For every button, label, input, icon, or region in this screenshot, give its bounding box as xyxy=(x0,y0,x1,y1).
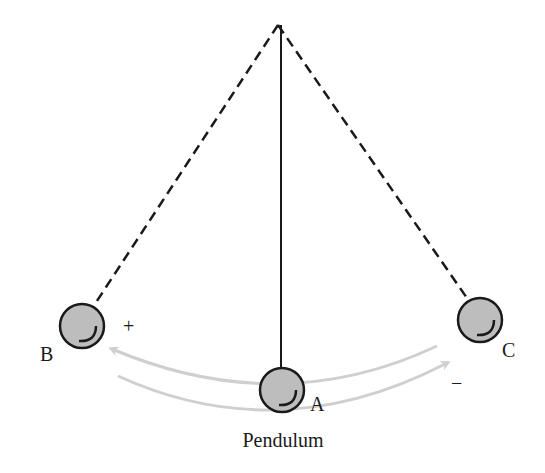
label-a: A xyxy=(310,393,325,415)
bob-b xyxy=(60,304,104,348)
bob-c xyxy=(458,298,502,342)
string-dashed-to-c xyxy=(278,25,469,301)
diagram-caption: Pendulum xyxy=(242,429,324,451)
bob-a xyxy=(260,368,304,412)
pendulum-diagram: B A C + − Pendulum xyxy=(0,0,545,473)
label-c: C xyxy=(502,339,515,361)
label-b: B xyxy=(40,343,53,365)
sign-minus: − xyxy=(451,372,462,394)
sign-plus: + xyxy=(123,315,134,337)
string-dashed-to-b xyxy=(93,25,278,307)
